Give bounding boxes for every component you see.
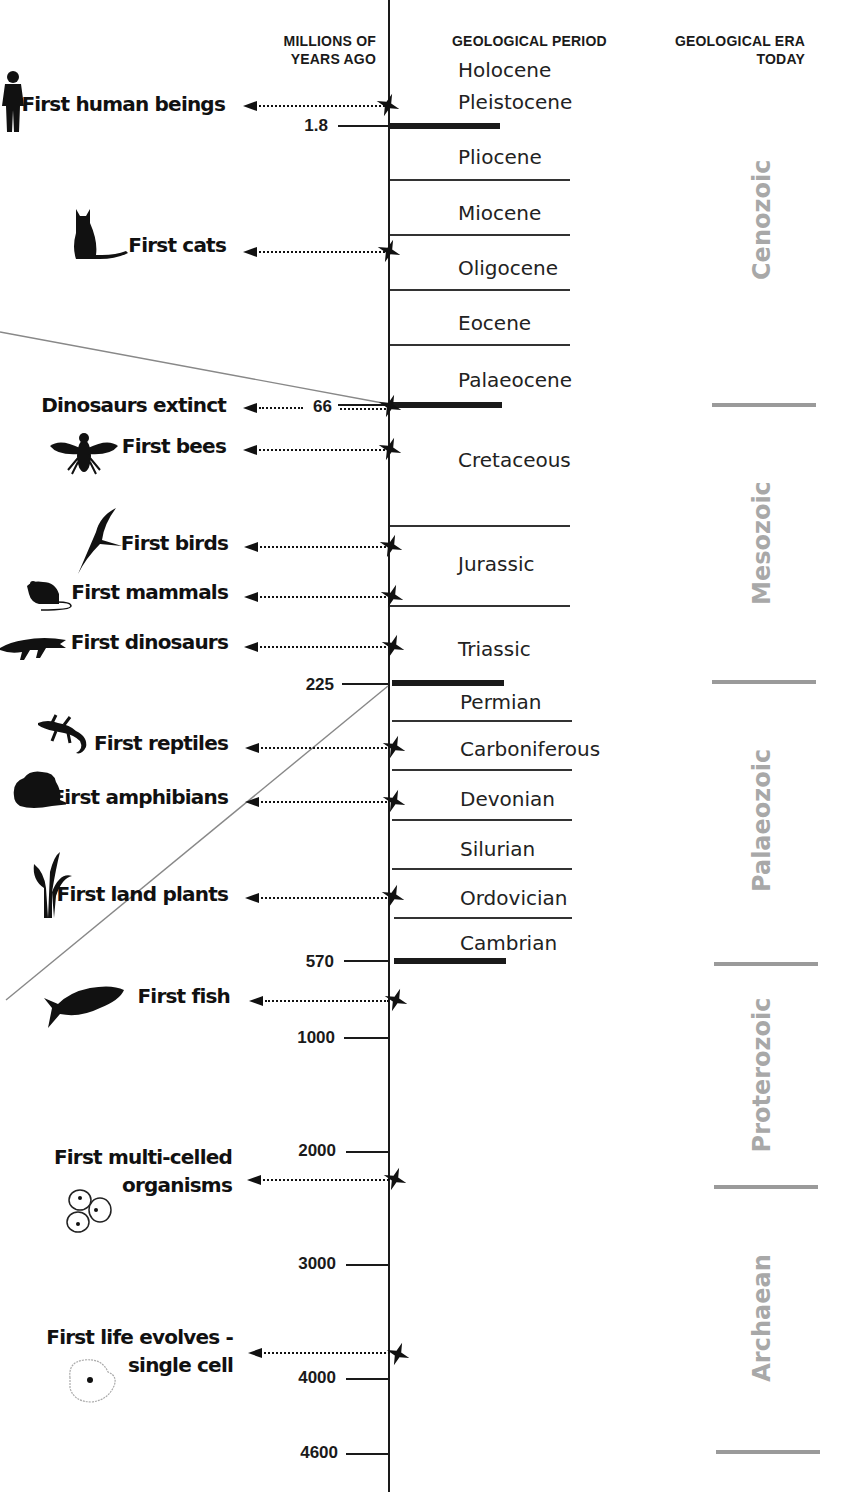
fish-icon	[40, 984, 126, 1032]
bird-icon	[76, 506, 124, 578]
plant-icon	[32, 852, 74, 920]
frog-icon	[12, 770, 66, 810]
cat-icon	[72, 207, 130, 261]
dinosaur-icon	[0, 632, 68, 662]
multi-cell-icon	[64, 1186, 114, 1236]
bee-icon	[50, 430, 118, 476]
single-cell-icon	[64, 1356, 120, 1406]
rat-icon	[25, 580, 75, 612]
lizard-icon	[36, 713, 94, 757]
human-icon	[0, 70, 26, 134]
